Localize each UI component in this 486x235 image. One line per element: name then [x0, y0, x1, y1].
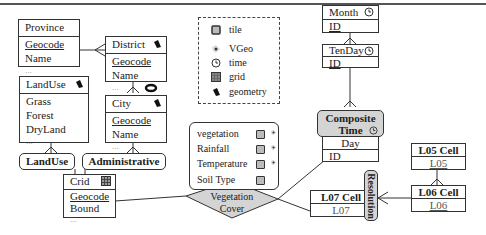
entity-district[interactable]: District Geocode Name ... [105, 36, 167, 82]
entity-landuse-title: LandUse [26, 78, 66, 90]
entity-tenday-title: TenDay [329, 44, 364, 56]
attr-l05: L05 [412, 156, 465, 169]
time-icon [369, 126, 378, 135]
geometry-icon [74, 79, 84, 89]
entity-grid-title: Crid [70, 175, 90, 187]
attr-id: ID [323, 149, 378, 162]
fact-name-line1: Vegetation [201, 191, 263, 203]
tile-icon [256, 130, 265, 139]
entity-tenday[interactable]: TenDay ID [322, 44, 379, 68]
attr-dryland: DryLand [20, 122, 88, 136]
vgeo-icon [211, 44, 221, 54]
attr-bound: Bound [64, 202, 115, 214]
attr-name: Name [19, 51, 79, 65]
attr-id: ID [323, 20, 378, 33]
entity-month-title: Month [329, 6, 358, 18]
measure-rainfall: Rainfall [197, 142, 229, 155]
legend-label-tile: tile [229, 24, 242, 36]
entity-province[interactable]: Province Geocode Name ... [18, 19, 80, 67]
measure-vegetation: vegetation [197, 127, 239, 140]
legend-label-geometry: geometry [229, 86, 267, 98]
attr-geocode: Geocode [106, 113, 166, 127]
legend: tile VGeo time grid geometry [198, 17, 280, 104]
entity-l05-title: L05 Cell [412, 144, 465, 156]
vgeo-icon [270, 144, 277, 151]
fact-name[interactable]: Vegetation Cover [201, 191, 263, 215]
entity-province-title: Province [19, 20, 79, 37]
legend-label-grid: grid [229, 71, 245, 83]
entity-city-title: City [112, 97, 131, 109]
fact-name-line2: Cover [201, 203, 263, 215]
entity-district-title: District [112, 38, 145, 50]
grid-icon [101, 176, 111, 186]
entity-city[interactable]: City Geocode Name ... [105, 95, 167, 143]
attr-l07: L07 [311, 203, 371, 216]
vgeo-icon [270, 129, 277, 136]
tile-icon [256, 160, 265, 169]
geometry-icon [152, 98, 162, 108]
composite-time-title-1: Composite [318, 112, 383, 124]
vgeo-icon [270, 159, 277, 166]
attr-name: Name [106, 127, 166, 141]
tile-icon [211, 25, 221, 35]
attr-day: Day [323, 137, 378, 149]
time-icon [364, 46, 374, 56]
measure-temperature: Temperature [197, 157, 247, 170]
tile-icon [256, 145, 265, 154]
geometry-icon [152, 39, 162, 49]
entity-l06[interactable]: L06 Cell L06 [411, 185, 466, 212]
legend-label-time: time [229, 57, 247, 69]
entity-month[interactable]: Month ID [322, 5, 379, 33]
attr-geocode: Geocode [19, 37, 79, 51]
hierarchy-landuse-label: LandUse [26, 155, 68, 167]
time-icon [364, 7, 374, 17]
entity-grid[interactable]: Crid Geocode Bound ... [63, 174, 116, 218]
legend-label-vgeo: VGeo [229, 43, 253, 55]
entity-landuse[interactable]: LandUse Grass Forest DryLand ... [19, 76, 89, 143]
entity-l07-title: L07 Cell [311, 191, 371, 203]
attr-grass: Grass [20, 94, 88, 108]
fact-measures: vegetation Rainfall Temperature Soil Typ… [189, 122, 279, 190]
measure-soil-type: Soil Type [197, 173, 235, 186]
attr-geocode: Geocode [106, 54, 166, 68]
tile-icon [256, 176, 265, 185]
entity-l06-title: L06 Cell [412, 186, 465, 198]
attr-more: ... [20, 136, 88, 146]
geometry-icon [211, 87, 221, 97]
hierarchy-resolution-label: Resolution [366, 173, 377, 219]
attr-forest: Forest [20, 108, 88, 122]
attr-name: Name [106, 68, 166, 82]
hierarchy-administrative-label: Administrative [89, 155, 160, 167]
entity-composite-time[interactable]: Composite Time Day ID [317, 110, 384, 162]
attr-more: ... [64, 214, 115, 224]
attr-geocode: Geocode [64, 190, 115, 202]
attr-more: ... [106, 82, 166, 92]
hierarchy-resolution[interactable]: Resolution [364, 170, 378, 221]
attr-l06: L06 [412, 198, 465, 211]
hierarchy-landuse[interactable]: LandUse [19, 153, 75, 170]
grid-icon [211, 72, 221, 82]
time-icon [211, 58, 221, 68]
hierarchy-administrative[interactable]: Administrative [82, 153, 166, 170]
attr-more: ... [19, 65, 79, 75]
attr-id: ID [323, 57, 378, 69]
attr-more: ... [106, 141, 166, 151]
entity-l05[interactable]: L05 Cell L05 [411, 143, 466, 170]
entity-l07[interactable]: L07 Cell L07 [310, 190, 372, 217]
